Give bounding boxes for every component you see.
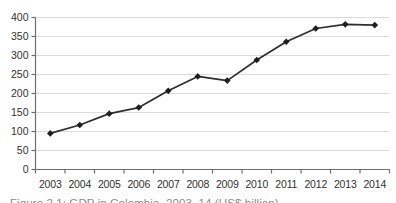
line-chart-figure: 0501001502002503003504002003200420052006…: [0, 0, 396, 203]
x-tick-label: 2003: [39, 178, 62, 190]
y-tick-label: 250: [11, 68, 29, 80]
data-point-marker: [312, 25, 319, 32]
data-line: [50, 24, 375, 133]
x-tick-label: 2012: [304, 178, 327, 190]
y-tick-label: 150: [11, 106, 29, 118]
line-chart: 0501001502002503003504002003200420052006…: [0, 0, 396, 203]
y-tick-label: 0: [23, 163, 29, 175]
x-tick-label: 2008: [186, 178, 209, 190]
y-tick-label: 100: [11, 125, 29, 137]
x-tick-label: 2013: [334, 178, 357, 190]
x-tick-label: 2011: [275, 178, 297, 190]
x-tick-label: 2007: [157, 178, 180, 190]
data-point-marker: [371, 22, 378, 29]
y-tick-label: 200: [11, 87, 29, 99]
x-tick-label: 2006: [127, 178, 150, 190]
data-point-marker: [76, 122, 83, 129]
x-tick-label: 2005: [98, 178, 121, 190]
data-point-marker: [342, 21, 349, 28]
y-tick-label: 350: [11, 30, 29, 42]
data-point-marker: [106, 110, 113, 117]
x-tick-label: 2009: [216, 178, 239, 190]
y-tick-label: 300: [11, 49, 29, 61]
y-tick-label: 50: [17, 144, 29, 156]
y-tick-label: 400: [11, 11, 29, 23]
figure-caption-cropped: Figure 2.1: GDP in Colombia, 2003–14 (US…: [10, 197, 396, 203]
x-tick-label: 2014: [363, 178, 386, 190]
x-tick-label: 2010: [245, 178, 268, 190]
x-tick-label: 2004: [68, 178, 91, 190]
data-point-marker: [135, 104, 142, 111]
